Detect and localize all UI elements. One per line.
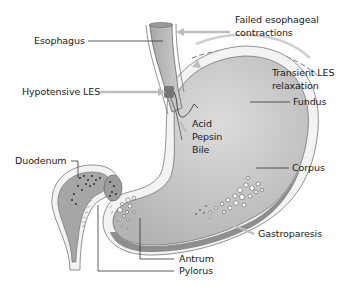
label-failed-contractions-1: Failed esophageal: [235, 14, 319, 26]
label-antrum: Antrum: [179, 253, 214, 265]
label-pylorus: Pylorus: [179, 265, 213, 277]
label-pepsin: Pepsin: [192, 131, 222, 143]
esophagus-opening: [149, 23, 173, 28]
label-failed-contractions-2: contractions: [235, 27, 293, 39]
label-transient-les-2: relaxation: [272, 80, 319, 92]
label-duodenum: Duodenum: [15, 155, 67, 167]
label-corpus: Corpus: [292, 162, 325, 174]
stomach-diagram: Esophagus Failed esophageal contractions…: [0, 0, 346, 287]
label-hypotensive-les: Hypotensive LES: [22, 86, 100, 98]
label-fundus: Fundus: [293, 96, 326, 108]
label-transient-les-1: Transient LES: [272, 67, 334, 79]
label-bile: Bile: [192, 144, 209, 156]
label-acid: Acid: [192, 118, 212, 130]
pylorus-sphincter: [104, 175, 122, 201]
label-esophagus: Esophagus: [34, 35, 85, 47]
label-gastroparesis: Gastroparesis: [258, 228, 322, 240]
